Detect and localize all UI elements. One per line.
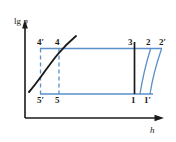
point-label-2: 2	[146, 38, 151, 47]
y-axis-label: lg p	[14, 17, 28, 26]
compression-line-2p-to-1p	[150, 49, 162, 94]
x-axis-arrowhead	[155, 115, 165, 122]
point-label-4-prime: 4′	[37, 38, 44, 47]
point-label-4: 4	[55, 38, 60, 47]
compression-line-2-to-1	[140, 49, 151, 94]
lg-p-h-cycle-diagram: lg p h 4′ 4 3 2 2′ 5′ 5 1 1′	[0, 0, 176, 142]
point-label-3: 3	[128, 38, 133, 47]
point-label-2-prime: 2′	[159, 38, 166, 47]
point-label-1: 1	[131, 96, 136, 105]
point-label-5-prime: 5′	[37, 96, 44, 105]
axes-group	[22, 20, 164, 121]
y-axis-label-prefix: lg	[14, 16, 21, 26]
point-label-1-prime: 1′	[144, 96, 151, 105]
y-axis-label-symbol: p	[23, 16, 28, 26]
cycle-outline-group	[40, 49, 162, 95]
x-axis-label: h	[150, 126, 155, 135]
point-label-5: 5	[55, 96, 60, 105]
